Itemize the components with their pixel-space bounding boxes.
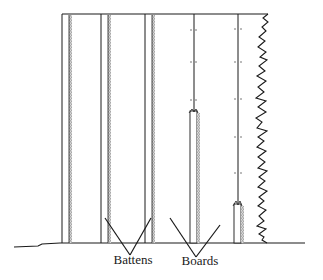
- battens-pointer: [105, 218, 151, 255]
- boards-label: Boards: [182, 253, 219, 269]
- board-1: [189, 14, 200, 243]
- batten-2: [101, 14, 111, 243]
- torn-edge: [256, 14, 268, 243]
- batten-1: [62, 14, 72, 243]
- siding-drawing: [0, 0, 323, 280]
- ground-line: [14, 243, 305, 247]
- batten-3: [145, 14, 155, 243]
- board-2: [233, 14, 244, 243]
- battens-label: Battens: [114, 252, 153, 268]
